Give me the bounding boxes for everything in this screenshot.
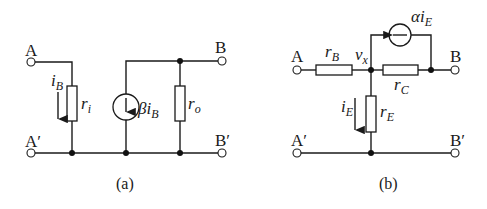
terminal-a-prime	[293, 149, 301, 157]
circuit-a: A A′ B B′ iB ri βiB ro (a)	[25, 38, 230, 193]
resistor-rc	[383, 65, 418, 75]
circuit-diagrams: A A′ B B′ iB ri βiB ro (a)	[0, 0, 487, 209]
label-rb: rB	[325, 42, 340, 64]
node-vx-dot	[368, 67, 374, 73]
label-b: B	[450, 47, 461, 66]
label-a-prime: A′	[25, 132, 41, 151]
terminal-a	[293, 66, 301, 74]
resistor-rb	[316, 65, 352, 75]
resistor-re	[366, 96, 376, 132]
label-ro: ro	[188, 94, 201, 116]
label-b-prime: B′	[215, 131, 230, 150]
label-a-prime: A′	[291, 131, 307, 150]
label-ie: iE	[341, 97, 354, 119]
label-re: rE	[380, 102, 395, 124]
node-dot	[177, 150, 183, 156]
terminal-b	[218, 57, 226, 65]
circuit-b: A A′ B B′ rB vx rC rE iE αiE (b)	[291, 7, 465, 193]
label-a: A	[25, 41, 38, 60]
terminal-b	[451, 66, 459, 74]
label-alpha-ie: αiE	[411, 7, 433, 29]
resistor-ro	[175, 86, 185, 121]
node-dot	[368, 150, 374, 156]
label-b-prime: B′	[450, 131, 465, 150]
label-vx: vx	[355, 45, 369, 67]
node-dot	[177, 58, 183, 64]
terminal-b-prime	[451, 149, 459, 157]
label-ib: iB	[51, 71, 64, 93]
label-rc: rC	[394, 75, 410, 97]
node-dot	[428, 67, 434, 73]
caption-b: (b)	[379, 175, 398, 193]
label-b: B	[215, 38, 226, 57]
label-beta-ib: βiB	[137, 99, 159, 121]
node-dot	[123, 150, 129, 156]
label-ri: ri	[81, 94, 91, 116]
caption-a: (a)	[116, 175, 134, 193]
node-dot	[69, 150, 75, 156]
wire-top-output	[126, 61, 219, 94]
resistor-ri	[67, 86, 77, 121]
label-a: A	[291, 47, 304, 66]
terminal-b-prime	[218, 149, 226, 157]
